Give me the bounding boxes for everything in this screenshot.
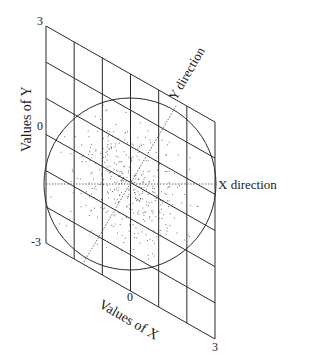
scatter-dot <box>152 253 153 254</box>
scatter-dot <box>170 225 171 226</box>
scatter-dot <box>157 196 158 197</box>
scatter-dot <box>165 224 166 225</box>
scatter-dot <box>127 132 128 133</box>
scatter-dot <box>124 151 125 152</box>
scatter-dot <box>125 238 126 239</box>
scatter-dot <box>122 173 123 174</box>
scatter-dot <box>126 217 127 218</box>
scatter-dot <box>138 152 139 153</box>
scatter-dot <box>157 170 158 171</box>
scatter-dot <box>91 210 92 211</box>
scatter-dot <box>124 140 125 141</box>
scatter-dot <box>95 116 96 117</box>
x-tick-three: 3 <box>212 340 218 354</box>
scatter-dot <box>150 142 151 143</box>
scatter-dot <box>172 194 173 195</box>
x-direction-label: X direction <box>218 177 277 192</box>
scatter-dot <box>107 160 108 161</box>
scatter-dot <box>138 214 139 215</box>
scatter-dot <box>107 192 108 193</box>
scatter-dot <box>89 182 90 183</box>
scatter-dot <box>148 259 149 260</box>
scatter-dot <box>131 161 132 162</box>
scatter-dot <box>116 156 117 157</box>
scatter-points <box>51 105 199 260</box>
scatter-dot <box>141 145 142 146</box>
scatter-dot <box>128 170 129 171</box>
scatter-dot <box>142 199 143 200</box>
scatter-dot <box>123 166 124 167</box>
scatter-dot <box>118 187 119 188</box>
scatter-dot <box>91 173 92 174</box>
scatter-dot <box>116 164 117 165</box>
scatter-dot <box>113 131 114 132</box>
scatter-dot <box>167 144 168 145</box>
scatter-dot <box>118 201 119 202</box>
scatter-dot <box>121 192 122 193</box>
scatter-dot <box>88 131 89 132</box>
scatter-dot <box>117 199 118 200</box>
scatter-dot <box>123 177 124 178</box>
scatter-dot <box>107 131 108 132</box>
scatter-dot <box>121 161 122 162</box>
scatter-dot <box>166 194 167 195</box>
scatter-dot <box>108 137 109 138</box>
scatter-dot <box>136 228 137 229</box>
scatter-dot <box>156 236 157 237</box>
scatter-dot <box>121 180 122 181</box>
scatter-dot <box>152 191 153 192</box>
scatter-dot <box>82 161 83 162</box>
scatter-dot <box>129 208 130 209</box>
scatter-dot <box>123 242 124 243</box>
scatter-dot <box>143 213 144 214</box>
scatter-dot <box>148 160 149 161</box>
scatter-dot <box>141 187 142 188</box>
scatter-dot <box>121 171 122 172</box>
scatter-dot <box>179 185 180 186</box>
scatter-dot <box>150 140 151 141</box>
scatter-dot <box>184 240 185 241</box>
scatter-dot <box>106 247 107 248</box>
scatter-dot <box>154 230 155 231</box>
scatter-dot <box>146 202 147 203</box>
scatter-dot <box>138 148 139 149</box>
scatter-dot <box>138 191 139 192</box>
scatter-dot <box>160 230 161 231</box>
scatter-dot <box>89 215 90 216</box>
scatter-dot <box>125 133 126 134</box>
scatter-dot <box>178 154 179 155</box>
scatter-dot <box>99 169 100 170</box>
scatter-dot <box>150 239 151 240</box>
scatter-dot <box>141 175 142 176</box>
scatter-dot <box>120 175 121 176</box>
scatter-dot <box>152 220 153 221</box>
scatter-dot <box>146 160 147 161</box>
scatter-dot <box>167 188 168 189</box>
scatter-dot <box>133 145 134 146</box>
scatter-dot <box>115 144 116 145</box>
scatter-dot <box>111 144 112 145</box>
scatter-dot <box>136 175 137 176</box>
scatter-dot <box>166 171 167 172</box>
scatter-dot <box>144 215 145 216</box>
scatter-dot <box>108 198 109 199</box>
scatter-dot <box>149 202 150 203</box>
scatter-dot <box>132 182 133 183</box>
scatter-dot <box>165 193 166 194</box>
scatter-dot <box>105 110 106 111</box>
scatter-dot <box>137 213 138 214</box>
scatter-dot <box>128 172 129 173</box>
scatter-dot <box>147 130 148 131</box>
scatter-dot <box>89 151 90 152</box>
scatter-dot <box>122 219 123 220</box>
scatter-dot <box>89 160 90 161</box>
scatter-dot <box>114 189 115 190</box>
scatter-dot <box>144 221 145 222</box>
scatter-dot <box>89 196 90 197</box>
scatter-dot <box>177 187 178 188</box>
scatter-dot <box>96 189 97 190</box>
scatter-dot <box>114 215 115 216</box>
scatter-dot <box>81 193 82 194</box>
scatter-dot <box>146 184 147 185</box>
scatter-dot <box>142 231 143 232</box>
